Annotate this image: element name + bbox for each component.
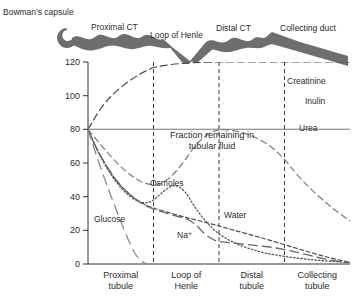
y-tick-label-100: 100 <box>49 91 80 101</box>
curve-label-osmoles: Osmoles <box>150 179 184 188</box>
y-tick-label-80: 80 <box>49 124 80 134</box>
x-label-loop-of-henle: Loop of Henle <box>154 270 220 292</box>
curve-label-glucose: Glucose <box>94 215 125 224</box>
x-label-proximal-tubule: Proximal tubule <box>88 270 154 292</box>
y-tick-label-120: 120 <box>49 57 80 67</box>
curve-label-sodium: Na⁺ <box>177 231 192 240</box>
x-label-collecting-tubule: Collecting tubule <box>285 270 351 292</box>
y-axis-ticks <box>83 62 88 264</box>
curve-label-water: Water <box>224 211 246 220</box>
x-label-distal-tubule: Distal tubule <box>219 270 285 292</box>
curve-label-urea: Urea <box>299 124 317 133</box>
plot-axes <box>83 62 350 264</box>
nephron-fraction-remaining-figure: Bowman's capsule Proximal CT Loop of Hen… <box>0 0 360 302</box>
curve-label-creatinine: Creatinine <box>287 77 326 86</box>
curve-label-inulin: Inulin <box>305 97 325 106</box>
plot-inline-title: Fraction remaining in tubular fluid <box>150 130 274 152</box>
y-tick-label-20: 20 <box>49 225 80 235</box>
y-tick-label-40: 40 <box>49 192 80 202</box>
y-tick-label-0: 0 <box>49 259 80 269</box>
y-tick-label-60: 60 <box>49 158 80 168</box>
